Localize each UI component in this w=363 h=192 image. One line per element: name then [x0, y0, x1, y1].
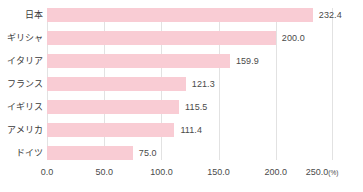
- bar: [47, 54, 230, 68]
- category-label: イギリス: [0, 100, 43, 114]
- plot-area: 232.4 200.0 159.9 121.3 115.5 111.4: [47, 8, 333, 160]
- bar-row: 159.9: [47, 54, 333, 68]
- bar: [47, 8, 313, 22]
- bar-value-label: 232.4: [319, 11, 342, 20]
- bar: [47, 123, 174, 137]
- x-tick-label: 200.0: [265, 168, 288, 177]
- category-label: 日本: [0, 8, 43, 22]
- x-tick-label: 100.0: [150, 168, 173, 177]
- bar-series: 232.4 200.0 159.9 121.3 115.5 111.4: [47, 8, 333, 160]
- bar: [47, 146, 133, 160]
- bar-chart: 日本 ギリシャ イタリア フランス イギリス アメリカ ドイツ 232.4 20…: [0, 0, 363, 192]
- bar: [47, 31, 276, 45]
- x-tick-label: 0.0: [41, 168, 54, 177]
- category-axis-labels: 日本 ギリシャ イタリア フランス イギリス アメリカ ドイツ: [0, 8, 43, 160]
- x-tick-label-last: 250.0(%): [306, 168, 339, 177]
- x-axis: 0.0 50.0 100.0 150.0 200.0 250.0(%): [47, 160, 333, 192]
- bar-row: 232.4: [47, 8, 333, 22]
- bar: [47, 77, 186, 91]
- category-label: ギリシャ: [0, 31, 43, 45]
- category-label: イタリア: [0, 54, 43, 68]
- bar-value-label: 121.3: [192, 80, 215, 89]
- bar-row: 111.4: [47, 123, 333, 137]
- bar-row: 75.0: [47, 146, 333, 160]
- bar-row: 200.0: [47, 31, 333, 45]
- bar-row: 115.5: [47, 100, 333, 114]
- axis-unit-label: (%): [328, 169, 338, 176]
- bar: [47, 100, 179, 114]
- category-label: フランス: [0, 77, 43, 91]
- bar-row: 121.3: [47, 77, 333, 91]
- bar-value-label: 200.0: [282, 34, 305, 43]
- bar-value-label: 111.4: [180, 126, 202, 135]
- x-tick-value: 250.0: [306, 167, 329, 177]
- bar-value-label: 159.9: [236, 57, 259, 66]
- category-label: ドイツ: [0, 146, 43, 160]
- bar-value-label: 115.5: [185, 103, 207, 112]
- x-tick-label: 50.0: [95, 168, 113, 177]
- bar-value-label: 75.0: [139, 149, 157, 158]
- x-tick-label: 150.0: [207, 168, 230, 177]
- category-label: アメリカ: [0, 123, 43, 137]
